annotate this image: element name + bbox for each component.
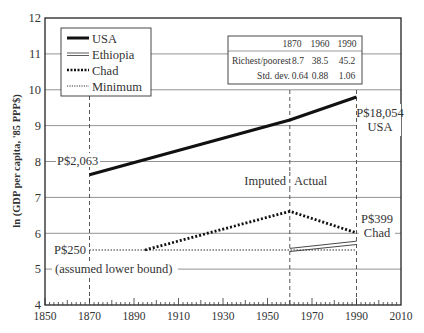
x-tick-label: 1950 <box>256 310 279 322</box>
table-row-label: Std. dev. <box>257 71 290 81</box>
y-tick-label: 5 <box>35 262 41 276</box>
y-tick-label: 4 <box>35 298 42 312</box>
table-header-1990: 1990 <box>338 39 357 49</box>
x-tick-label: 1990 <box>345 310 368 322</box>
y-tick-label: 8 <box>35 155 41 169</box>
annotation-actual: Actual <box>294 174 328 188</box>
x-tick-label: 2010 <box>390 310 413 322</box>
x-tick-label: 1970 <box>301 310 324 322</box>
table-cell: 0.64 <box>292 71 309 81</box>
x-tick-label: 1870 <box>78 310 101 322</box>
x-tick-labels: 1850 1870 1890 1910 1930 1950 1970 1990 … <box>34 310 413 322</box>
table-cell: 45.2 <box>339 56 356 66</box>
y-tick-label: 12 <box>29 11 42 25</box>
y-axis-label: ln (GDP per capita, '85 PPP$) <box>11 94 23 228</box>
table-cell: 38.5 <box>312 56 329 66</box>
legend-label-usa: USA <box>92 32 117 46</box>
series-usa <box>90 97 357 175</box>
annotation-imputed: Imputed <box>244 174 286 188</box>
y-tick-labels: 4 5 6 7 8 9 10 11 12 <box>29 11 42 312</box>
annotation-usa-1990: P$18,054 <box>356 106 404 120</box>
y-tick-label: 7 <box>35 191 41 205</box>
chart: 1850 1870 1890 1910 1930 1950 1970 1990 … <box>0 0 424 333</box>
annotation-usa-label: USA <box>367 120 392 134</box>
annotation-min-value: P$250 <box>54 243 86 257</box>
legend-label-ethiopia: Ethiopia <box>92 48 135 62</box>
table-cell: 1.06 <box>339 71 356 81</box>
legend: USA Ethiopia Chad Minimum <box>61 28 151 96</box>
legend-label-chad: Chad <box>92 64 119 78</box>
inset-table: 1870 1960 1990 Richest/poorest 8.7 38.5 … <box>228 36 362 84</box>
annotation-chad-label: Chad <box>364 226 391 240</box>
table-header-1960: 1960 <box>311 39 330 49</box>
table-row-label: Richest/poorest <box>232 56 291 66</box>
x-ticks <box>45 298 397 305</box>
annotation-chad-1990: P$399 <box>361 212 393 226</box>
annotation-lower-bound: (assumed lower bound) <box>55 262 172 276</box>
annotation-usa-1870: P$2,063 <box>57 154 98 168</box>
legend-label-minimum: Minimum <box>92 80 142 94</box>
x-tick-label: 1930 <box>212 310 235 322</box>
y-tick-label: 11 <box>29 47 41 61</box>
table-cell: 8.7 <box>292 56 304 66</box>
table-header-1870: 1870 <box>283 39 302 49</box>
x-tick-label: 1890 <box>123 310 146 322</box>
table-cell: 0.88 <box>312 71 329 81</box>
y-tick-label: 6 <box>35 227 41 241</box>
y-tick-label: 10 <box>29 83 42 97</box>
x-tick-label: 1910 <box>167 310 190 322</box>
y-tick-label: 9 <box>35 119 41 133</box>
